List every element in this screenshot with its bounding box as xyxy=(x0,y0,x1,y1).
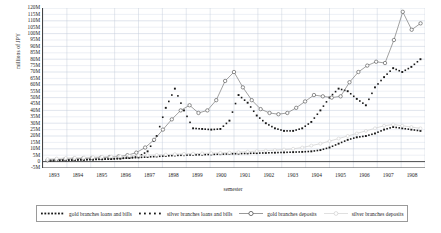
chart-legend: gold branches loans and billssilver bran… xyxy=(36,205,408,222)
legend-item[interactable]: silver branches deposits xyxy=(320,206,407,221)
y-tick-label: 20M xyxy=(4,133,40,138)
plot-area xyxy=(42,8,424,168)
y-tick-label: 0 xyxy=(4,159,40,164)
x-axis-tick-labels: 1893189418951896189718981899190019011902… xyxy=(42,172,424,184)
y-tick-label: 55M xyxy=(4,89,40,94)
legend-label: silver branches deposits xyxy=(352,211,404,217)
legend-key-line-circle-dark-icon xyxy=(238,209,264,218)
y-tick-label: 80M xyxy=(4,57,40,62)
legend-item[interactable]: gold branches deposits xyxy=(235,206,319,221)
y-tick-label: 50M xyxy=(4,95,40,100)
y-tick-label: 25M xyxy=(4,127,40,132)
y-tick-label: 105M xyxy=(4,25,40,30)
y-tick-label: 100M xyxy=(4,31,40,36)
y-tick-label: 110M xyxy=(4,18,40,23)
legend-key-line-circle-light-icon xyxy=(323,209,349,218)
legend-item[interactable]: silver branches loans and bills xyxy=(135,206,235,221)
x-tick-label: 1908 xyxy=(392,172,432,178)
y-tick-label: 45M xyxy=(4,101,40,106)
legend-label: silver branches loans and bills xyxy=(167,211,232,217)
y-tick-label: 90M xyxy=(4,44,40,49)
legend-label: gold branches deposits xyxy=(267,211,316,217)
legend-key-dotted-black-sparse-icon xyxy=(138,209,164,218)
y-tick-label: 60M xyxy=(4,82,40,87)
y-tick-label: -5M xyxy=(4,165,40,170)
legend-key-dotted-black-icon xyxy=(40,209,66,218)
chart-canvas xyxy=(43,8,425,168)
x-axis-title: semester xyxy=(42,186,424,192)
y-tick-label: 70M xyxy=(4,69,40,74)
y-tick-label: 15M xyxy=(4,140,40,145)
y-tick-label: 115M xyxy=(4,12,40,17)
y-axis-tick-labels: -5M05M10M15M20M25M30M35M40M45M50M55M60M6… xyxy=(0,8,40,168)
legend-item[interactable]: gold branches loans and bills xyxy=(37,206,135,221)
y-tick-label: 95M xyxy=(4,37,40,42)
y-tick-label: 40M xyxy=(4,108,40,113)
y-tick-label: 65M xyxy=(4,76,40,81)
y-tick-label: 85M xyxy=(4,50,40,55)
y-tick-label: 120M xyxy=(4,5,40,10)
y-tick-label: 75M xyxy=(4,63,40,68)
legend-label: gold branches loans and bills xyxy=(69,211,132,217)
y-tick-label: 5M xyxy=(4,153,40,158)
y-tick-label: 35M xyxy=(4,114,40,119)
chart-figure: millions of JPY -5M05M10M15M20M25M30M35M… xyxy=(0,0,441,233)
y-tick-label: 10M xyxy=(4,146,40,151)
y-tick-label: 30M xyxy=(4,121,40,126)
